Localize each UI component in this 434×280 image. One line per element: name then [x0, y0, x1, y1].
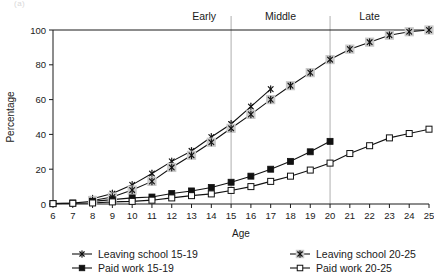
marker-square-open: [248, 184, 254, 190]
marker-square-open: [386, 135, 392, 141]
marker-star: [268, 86, 273, 93]
marker-square-open: [347, 151, 353, 157]
marker-square-open: [307, 167, 313, 173]
legend-label: Paid work 15-19: [98, 262, 174, 274]
marker-square-open: [189, 193, 195, 199]
marker-square-filled: [287, 158, 293, 164]
x-tick-label: 14: [206, 210, 217, 221]
series-line-leaving-school-20-25: [93, 30, 429, 201]
y-tick-label: 0: [41, 199, 46, 210]
x-tick-label: 25: [424, 210, 434, 221]
marker-square-open: [90, 200, 96, 206]
marker-square-open: [297, 265, 303, 271]
marker-square-open: [268, 178, 274, 184]
x-tick-label: 23: [384, 210, 395, 221]
marker-square-open: [149, 197, 155, 203]
marker-square-filled: [228, 179, 234, 185]
marker-square-open: [50, 201, 56, 207]
legend-label: Paid work 20-25: [316, 262, 392, 274]
marker-square-open: [208, 191, 214, 197]
marker-square-filled: [268, 166, 274, 172]
y-tick-label: 60: [35, 94, 46, 105]
x-tick-label: 22: [364, 210, 375, 221]
marker-square-filled: [307, 149, 313, 155]
marker-square-open: [406, 131, 412, 137]
phase-label-early: Early: [192, 10, 217, 22]
marker-square-open: [287, 173, 293, 179]
marker-square-open: [426, 126, 432, 132]
marker-square-filled: [208, 184, 214, 190]
x-tick-label: 10: [127, 210, 138, 221]
x-tick-label: 8: [90, 210, 95, 221]
marker-square-open: [70, 200, 76, 206]
x-tick-label: 11: [147, 210, 157, 221]
marker-square-filled: [248, 173, 254, 179]
legend-label: Leaving school 20-25: [316, 248, 416, 260]
y-tick-label: 80: [35, 59, 46, 70]
cropped-panel-label: (a): [14, 0, 36, 8]
y-axis-title: Percentage: [5, 91, 16, 143]
series-markers-leaving-school-20-25: [88, 25, 434, 205]
x-tick-label: 21: [345, 210, 356, 221]
legend-label: Leaving school 15-19: [98, 248, 198, 260]
x-tick-label: 9: [110, 210, 115, 221]
x-tick-label: 18: [285, 210, 296, 221]
x-tick-label: 24: [404, 210, 415, 221]
marker-square-open: [169, 195, 175, 201]
marker-star: [248, 103, 253, 110]
y-tick-label: 40: [35, 129, 46, 140]
marker-star: [149, 170, 154, 177]
x-tick-label: 6: [50, 210, 55, 221]
y-tick-label: 20: [35, 164, 46, 175]
x-tick-label: 20: [325, 210, 336, 221]
marker-square-open: [129, 198, 135, 204]
marker-square-open: [327, 160, 333, 166]
x-axis-title: Age: [232, 228, 250, 239]
chart-figure: (a) EarlyMiddleLate020406080100678910111…: [0, 0, 434, 280]
marker-square-open: [228, 187, 234, 193]
x-tick-label: 15: [226, 210, 237, 221]
marker-square-filled: [79, 265, 85, 271]
marker-square-filled: [327, 138, 333, 144]
series-line-leaving-school-15-19: [93, 89, 271, 199]
x-tick-label: 17: [265, 210, 276, 221]
x-tick-label: 13: [186, 210, 197, 221]
phase-label-late: Late: [359, 10, 380, 22]
x-tick-label: 19: [305, 210, 316, 221]
x-tick-label: 12: [166, 210, 177, 221]
phase-label-middle: Middle: [265, 10, 296, 22]
legend-item[interactable]: Paid work 20-25: [290, 262, 392, 274]
legend-item[interactable]: Leaving school 15-19: [72, 248, 198, 260]
legend-item[interactable]: Leaving school 20-25: [290, 248, 416, 260]
line-chart: EarlyMiddleLate0204060801006789101112131…: [0, 0, 434, 280]
legend-item[interactable]: Paid work 15-19: [72, 262, 174, 274]
y-tick-label: 100: [30, 25, 46, 36]
marker-square-open: [367, 143, 373, 149]
series-markers-leaving-school-15-19: [90, 86, 273, 202]
x-tick-label: 7: [70, 210, 75, 221]
marker-square-open: [109, 199, 115, 205]
x-tick-label: 16: [246, 210, 257, 221]
